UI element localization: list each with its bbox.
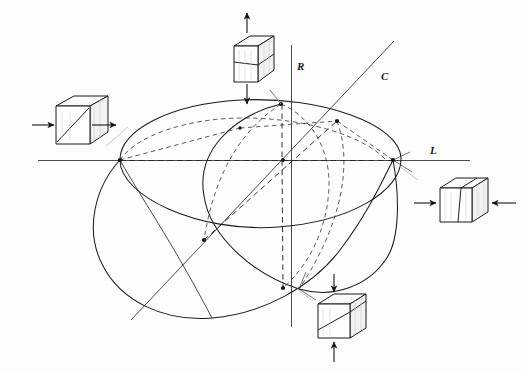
deformation-block-top: [234, 13, 274, 104]
chord-dash-c-right: [337, 121, 393, 160]
meridian-dashed-vertical: [281, 104, 329, 288]
strain-ellipsoid-diagram: R C L: [0, 0, 521, 372]
r-axis-dash-lower: [282, 160, 283, 288]
chord-dash-left-upper: [120, 128, 240, 160]
leader-top-block: [272, 92, 281, 104]
ellipsoid-outline: [120, 100, 401, 228]
great-circle-rear-dashed: [120, 118, 386, 160]
meridian-dashed-c: [204, 104, 281, 240]
great-circle-front: [203, 104, 398, 292]
deformation-block-bottom: [318, 274, 366, 362]
leader-right-block: [399, 166, 418, 180]
ellipsoid-group: [93, 90, 412, 318]
deformation-block-left: [32, 96, 116, 144]
great-circle-lobe: [120, 160, 212, 318]
deformation-block-right: [414, 178, 516, 222]
axis-label-C: C: [381, 70, 389, 82]
chord-dash-upper-c: [240, 121, 337, 128]
c-axis-dash: [204, 121, 337, 240]
axis-label-L: L: [429, 144, 437, 156]
figure-canvas: R C L: [0, 0, 521, 372]
axis-label-R: R: [296, 60, 304, 72]
axis-line-C: [131, 41, 394, 320]
axis-group: [38, 41, 470, 327]
ellipsoid-node-dots: [118, 102, 395, 290]
